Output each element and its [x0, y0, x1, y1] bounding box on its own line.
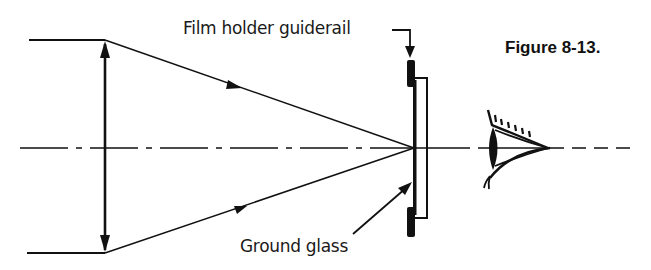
optics-diagram: Film holder guiderail Ground glass Figur… — [0, 0, 651, 270]
eye-icon — [484, 110, 550, 189]
lens-top-arrow-icon — [100, 41, 110, 58]
lens-bottom-arrow-icon — [100, 235, 110, 252]
upper-ray-arrow-icon — [226, 80, 242, 89]
ground-glass — [413, 80, 417, 215]
lens — [100, 41, 110, 252]
guiderail-pointer — [392, 30, 415, 58]
ground-glass-label: Ground glass — [240, 236, 348, 256]
figure-caption: Figure 8-13. — [505, 38, 600, 57]
guiderail-label: Film holder guiderail — [183, 18, 351, 38]
lower-ray-arrow-icon — [234, 206, 247, 214]
upper-ray — [29, 40, 414, 148]
lower-ray — [27, 148, 414, 253]
ground-glass-pointer — [353, 182, 412, 234]
guiderail-pointer-arrow-icon — [405, 46, 415, 58]
